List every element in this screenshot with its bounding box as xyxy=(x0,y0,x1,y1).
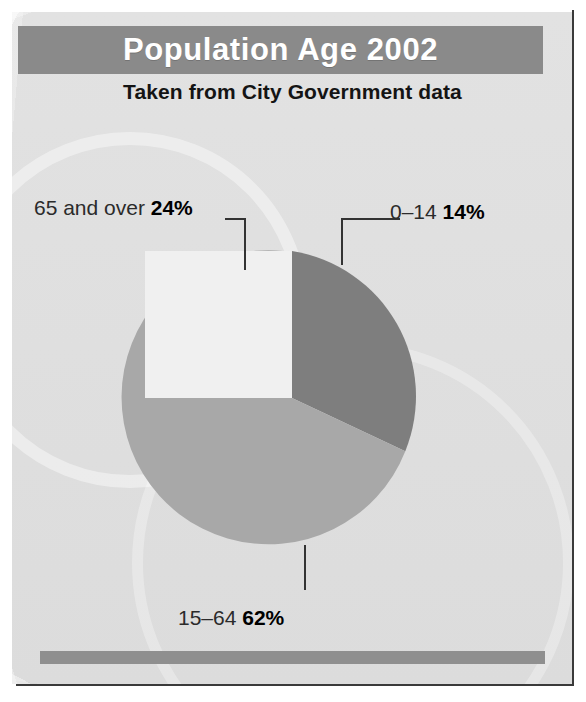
pie-chart-svg xyxy=(12,12,573,684)
slice-label-children: 0–14 14% xyxy=(390,200,485,224)
bottom-border-rule xyxy=(16,684,574,686)
slice-label-seniors-name: 65 and over xyxy=(34,196,151,219)
slice-label-children-value: 14% xyxy=(443,200,485,223)
slice-label-adults-name: 15–64 xyxy=(178,606,242,629)
pie-chart: 65 and over 24% 0–14 14% 15–64 62% xyxy=(12,12,573,684)
slice-label-adults-value: 62% xyxy=(242,606,284,629)
slice-label-seniors-value: 24% xyxy=(151,196,193,219)
slice-label-adults: 15–64 62% xyxy=(178,606,284,630)
slice-label-children-name: 0–14 xyxy=(390,200,443,223)
leader-line-children xyxy=(342,219,400,265)
population-age-pie-figure: Population Age 2002 Taken from City Gove… xyxy=(0,0,586,702)
slice-label-seniors: 65 and over 24% xyxy=(34,196,193,220)
pie-slice-seniors-fill xyxy=(145,251,292,398)
bottom-accent-bar xyxy=(40,651,545,664)
